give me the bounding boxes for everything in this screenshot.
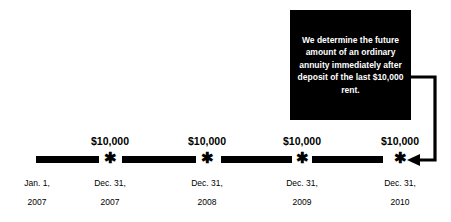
timeline: ✱ ✱ ✱ ✱ $10,000 $10,000 $10,000 $10,000 … (0, 0, 451, 222)
date-label-jan-1-2007: Jan. 1, 2007 (0, 174, 74, 212)
timeline-segment-2 (122, 156, 196, 163)
amount-label-2009: $10,000 (267, 135, 337, 147)
amount-label-2010: $10,000 (365, 135, 435, 147)
date-line-1: Dec. 31, (94, 178, 126, 188)
date-line-1: Jan. 1, (24, 178, 50, 188)
date-label-dec-31-2010: Dec. 31, 2010 (363, 174, 437, 212)
date-label-dec-31-2007: Dec. 31, 2007 (73, 174, 147, 212)
timeline-segment-4 (312, 156, 383, 163)
amount-label-2007: $10,000 (75, 135, 145, 147)
asterisk-marker-2007: ✱ (103, 150, 117, 166)
date-line-1: Dec. 31, (384, 178, 416, 188)
asterisk-marker-2008: ✱ (200, 150, 214, 166)
timeline-segment-1 (36, 156, 99, 163)
date-line-1: Dec. 31, (286, 178, 318, 188)
date-line-2: 2007 (0, 193, 74, 212)
timeline-segment-3 (221, 156, 292, 163)
date-line-2: 2010 (363, 193, 437, 212)
date-line-2: 2008 (170, 193, 244, 212)
date-label-dec-31-2008: Dec. 31, 2008 (170, 174, 244, 212)
asterisk-marker-2010: ✱ (393, 150, 407, 166)
amount-label-2008: $10,000 (172, 135, 242, 147)
date-line-1: Dec. 31, (191, 178, 223, 188)
date-line-2: 2007 (73, 193, 147, 212)
date-label-dec-31-2009: Dec. 31, 2009 (265, 174, 339, 212)
asterisk-marker-2009: ✱ (295, 150, 309, 166)
annuity-timeline-diagram: We determine the future amount of an ord… (0, 0, 451, 222)
date-line-2: 2009 (265, 193, 339, 212)
